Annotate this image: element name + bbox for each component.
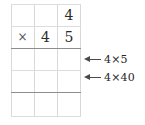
multiplication-grid: 4 × 4 5 — [11, 4, 81, 117]
cell-r2c2-multiplier-tens[interactable]: 4 — [34, 26, 57, 48]
cell-r1c1[interactable] — [11, 4, 34, 26]
grid-cells: 4 × 4 5 — [11, 4, 81, 117]
cell-r5c2[interactable] — [34, 92, 57, 117]
cell-r4c2[interactable] — [34, 70, 57, 92]
cell-r3c3[interactable] — [57, 48, 81, 70]
cell-r4c1[interactable] — [11, 70, 34, 92]
cell-r3c2[interactable] — [34, 48, 57, 70]
annotation-partial-product-units: 4×5 — [84, 52, 128, 66]
annotation-label-tens: 4×40 — [104, 71, 135, 84]
annotation-label-units: 4×5 — [104, 53, 128, 66]
cell-r3c1[interactable] — [11, 48, 34, 70]
worksheet-root: 4 × 4 5 4×5 4×40 — [0, 0, 145, 125]
cell-r1c2[interactable] — [34, 4, 57, 26]
cell-r5c3[interactable] — [57, 92, 81, 117]
cell-r5c1[interactable] — [11, 92, 34, 117]
cell-r2c1-operator[interactable]: × — [11, 26, 34, 48]
arrow-left-icon — [84, 55, 101, 64]
cell-r1c3-multiplicand-digit[interactable]: 4 — [57, 4, 81, 26]
annotation-partial-product-tens: 4×40 — [84, 70, 135, 84]
arrow-left-icon — [84, 73, 101, 82]
cell-r4c3[interactable] — [57, 70, 81, 92]
cell-r2c3-multiplier-units[interactable]: 5 — [57, 26, 81, 48]
